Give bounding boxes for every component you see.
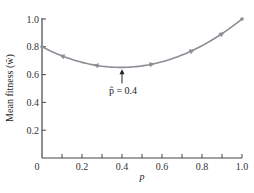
- equilibrium-label: p̂ = 0.4: [109, 85, 137, 96]
- endpoint-dot: [240, 17, 244, 21]
- y-tick-label: 1.0: [27, 14, 40, 25]
- equilibrium-annotation: p̂ = 0.4: [109, 69, 137, 96]
- y-tick-label: 0.8: [27, 41, 40, 52]
- x-tick-label: 0.4: [116, 161, 129, 172]
- arrow-up-icon: [120, 69, 125, 74]
- y-axis-label: Mean fitness (w̄): [4, 54, 16, 122]
- x-tick-label: 0.2: [76, 161, 89, 172]
- endpoint-dot: [40, 45, 44, 49]
- y-tick-label: 0.2: [27, 125, 40, 136]
- x-tick-label: 0.8: [196, 161, 209, 172]
- fitness-curve: [40, 17, 244, 67]
- y-tick-label: 0.4: [27, 97, 40, 108]
- x-tick-label: 1.0: [236, 161, 249, 172]
- fitness-line: [42, 19, 242, 67]
- x-tick-label: 0.6: [156, 161, 169, 172]
- arrowhead-right-icon: [189, 47, 196, 54]
- y-tick-label: 0.6: [27, 69, 40, 80]
- arrowhead-left-icon: [58, 52, 65, 59]
- x-tick-label: 0: [35, 161, 40, 172]
- x-axis-label: p: [139, 171, 145, 182]
- chart: 00.20.40.60.81.00.20.40.60.81.0 p̂ = 0.4…: [0, 0, 254, 193]
